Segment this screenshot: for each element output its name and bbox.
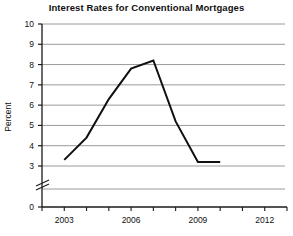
x-axis-tick-label: 2003 <box>55 215 74 225</box>
plot-area: 3456789100 2003200620092012 <box>0 0 293 236</box>
y-axis-tick-label: 3 <box>29 161 34 171</box>
y-axis-tick-label: 7 <box>29 80 34 90</box>
y-axis-origin-label: 0 <box>29 202 34 212</box>
data-series-line <box>64 61 220 162</box>
x-axis-tick-label: 2009 <box>188 215 207 225</box>
gridlines-group <box>42 24 285 189</box>
line-chart: Interest Rates for Conventional Mortgage… <box>0 0 293 236</box>
y-axis-tick-label: 10 <box>25 19 35 29</box>
y-axis-tick-label: 4 <box>29 141 34 151</box>
y-axis-tick-labels-group: 3456789100 <box>25 19 35 212</box>
y-axis-tick-label: 6 <box>29 100 34 110</box>
y-axis-tick-label: 8 <box>29 60 34 70</box>
x-axis-tick-label: 2006 <box>122 215 141 225</box>
x-axis-tick-labels-group: 2003200620092012 <box>55 215 275 225</box>
x-axis-tick-label: 2012 <box>255 215 274 225</box>
y-axis-tick-label: 5 <box>29 120 34 130</box>
y-axis-tick-label: 9 <box>29 39 34 49</box>
